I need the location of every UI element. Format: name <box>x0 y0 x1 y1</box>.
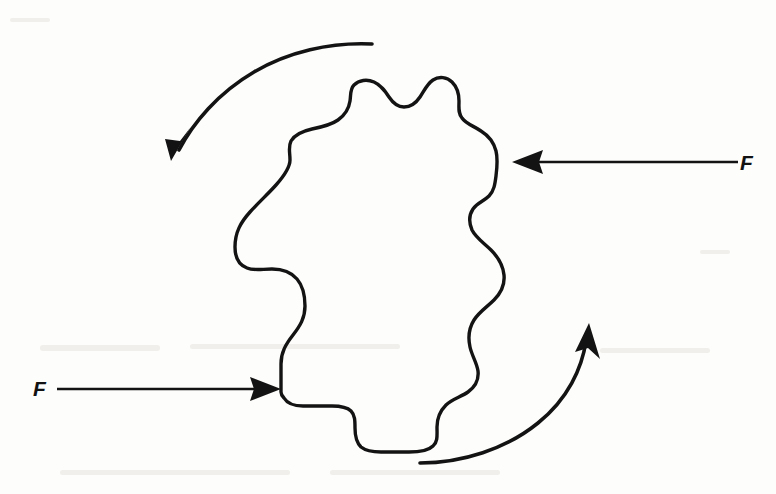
force-arrow-right <box>512 150 738 174</box>
force-arrow-left <box>57 377 281 401</box>
scan-artifacts <box>10 18 730 475</box>
force-right-arrowhead <box>512 150 543 174</box>
rotation-arrow-bottom-head <box>575 323 600 359</box>
rotation-arrow-top-arc <box>179 44 372 150</box>
mechanics-figure: F F <box>0 0 776 494</box>
rotation-arrow-bottom-arc <box>420 341 586 463</box>
figure-canvas: F F <box>0 0 776 494</box>
rotation-arrow-bottom <box>420 323 600 463</box>
rotation-arrow-top <box>165 44 372 161</box>
rigid-body-outline <box>235 78 504 452</box>
force-left-arrowhead <box>250 377 281 401</box>
force-label-left: F <box>33 377 47 400</box>
rotation-arrow-top-head <box>165 128 190 161</box>
force-label-right: F <box>740 151 754 174</box>
